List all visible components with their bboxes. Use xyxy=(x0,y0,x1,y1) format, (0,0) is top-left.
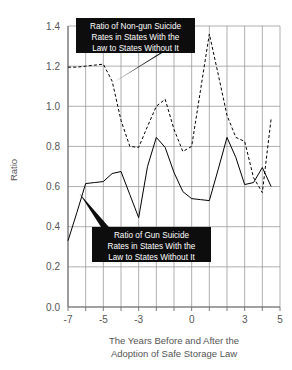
callout-line: Rates in States With the xyxy=(108,242,196,251)
callout-line: Law to States Without It xyxy=(108,253,195,262)
callout-line: Rates in States With the xyxy=(92,33,180,42)
y-axis-title: Ratio xyxy=(8,159,19,181)
x-axis-title-line2: Adoption of Safe Storage Law xyxy=(111,348,237,359)
x-tick-label: 3 xyxy=(242,314,248,325)
y-tick-label: 0.0 xyxy=(46,302,60,313)
y-tick-label: 0.2 xyxy=(46,261,60,272)
chart-background xyxy=(0,0,292,370)
y-tick-label: 1.0 xyxy=(46,101,60,112)
y-tick-label: 0.4 xyxy=(46,221,60,232)
y-tick-label: 0.8 xyxy=(46,141,60,152)
y-tick-label: 0.6 xyxy=(46,181,60,192)
x-tick-label: 0 xyxy=(189,314,195,325)
callout-line: Law to States Without It xyxy=(92,44,179,53)
suicide-rate-ratio-line-chart: 0.00.20.40.60.81.01.21.4 -7-5-3035 Ratio… xyxy=(0,0,292,370)
x-tick-label: -3 xyxy=(134,314,143,325)
y-tick-label: 1.4 xyxy=(46,21,60,32)
x-tick-label: -5 xyxy=(99,314,108,325)
x-tick-label: 5 xyxy=(277,314,283,325)
callout-line: Ratio of Gun Suicide xyxy=(114,231,190,240)
chart-figure: 0.00.20.40.60.81.01.21.4 -7-5-3035 Ratio… xyxy=(0,0,292,370)
callout-line: Ratio of Non-gun Suicide xyxy=(90,22,181,31)
y-tick-label: 1.2 xyxy=(46,61,60,72)
x-axis-title-line1: The Years Before and After the xyxy=(109,335,239,346)
x-tick-label: -7 xyxy=(64,314,73,325)
